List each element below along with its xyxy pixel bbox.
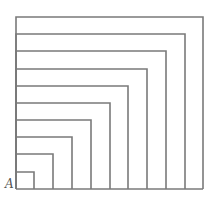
corner-label-a: A bbox=[5, 177, 14, 191]
nested-squares-diagram bbox=[0, 0, 215, 202]
square-3 bbox=[16, 137, 72, 189]
square-5 bbox=[16, 103, 110, 189]
square-9 bbox=[16, 34, 185, 189]
square-1 bbox=[16, 172, 34, 189]
